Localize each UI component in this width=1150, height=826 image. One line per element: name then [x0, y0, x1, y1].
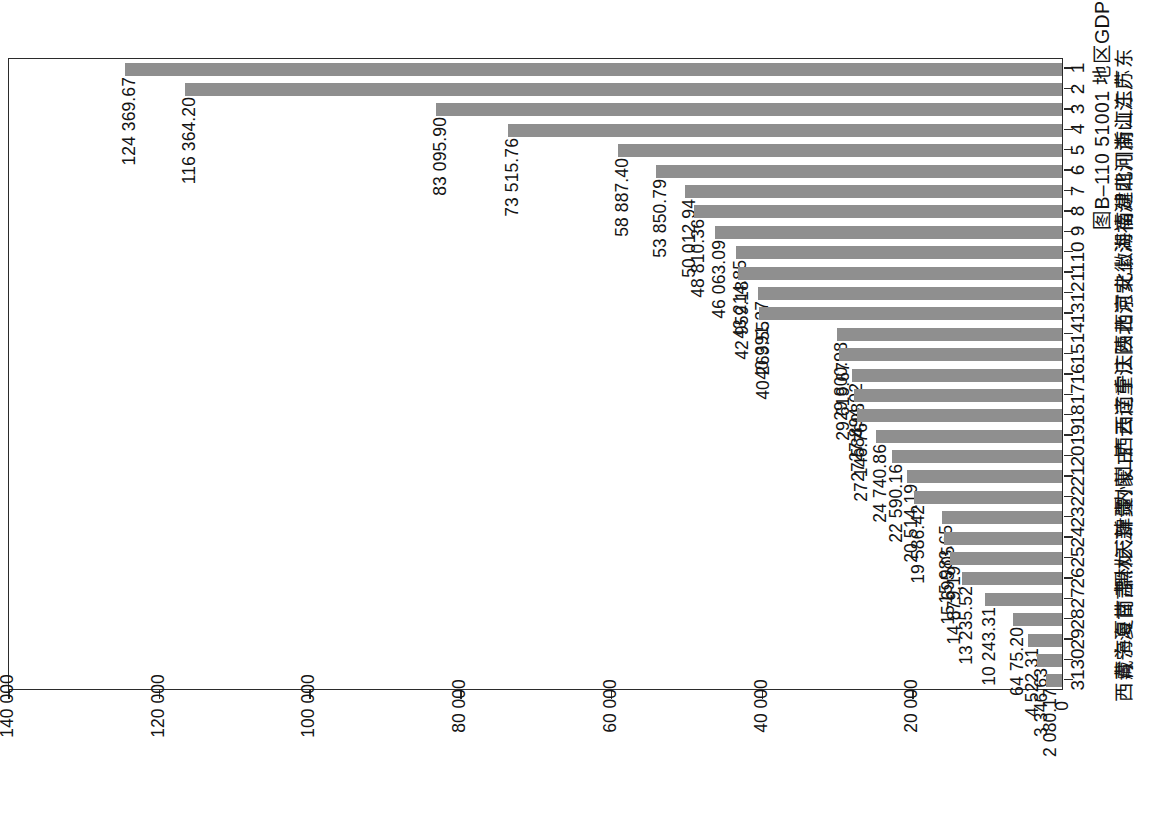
- bar-江苏: [7, 83, 1062, 96]
- category-rank-text: 1: [1068, 63, 1087, 74]
- category-rank-text: 21: [1068, 465, 1087, 486]
- bar-上海: [7, 246, 1062, 259]
- plot-area: 124 369.67116 364.2083 095.9073 515.7658…: [8, 58, 1063, 690]
- bar-rect: [914, 491, 1062, 504]
- bar-rect: [759, 307, 1062, 320]
- value-tick: [611, 690, 613, 699]
- category-rank-text: 18: [1068, 404, 1087, 425]
- bar-云南: [7, 409, 1062, 422]
- figure-caption: 图B–110 51001 地区GDP（亿元）: [1086, 230, 1126, 630]
- bar-青海: [7, 654, 1062, 667]
- value-tick: [309, 690, 311, 699]
- category-rank-text: 3: [1068, 104, 1087, 115]
- bar-rect: [839, 348, 1062, 361]
- category-rank-text: 30: [1068, 649, 1087, 670]
- category-rank-text: 25: [1068, 547, 1087, 568]
- category-rank-text: 10: [1068, 241, 1087, 262]
- category-rank-text: 24: [1068, 527, 1087, 548]
- value-tick: [460, 690, 462, 699]
- category-rank-text: 8: [1068, 206, 1087, 217]
- bar-新疆: [7, 511, 1062, 524]
- bar-广西: [7, 430, 1062, 443]
- value-tick: [762, 690, 764, 699]
- bar-rect: [857, 409, 1062, 422]
- bar-rect: [942, 511, 1062, 524]
- category-rank-text: 28: [1068, 608, 1087, 629]
- bar-rect: [656, 165, 1062, 178]
- bar-河北: [7, 287, 1062, 300]
- category-rank-text: 11: [1068, 262, 1087, 282]
- category-rank-text: 6: [1068, 165, 1087, 176]
- bar-rect: [985, 593, 1062, 606]
- category-rank-text: 4: [1068, 124, 1087, 135]
- bar-山西: [7, 450, 1062, 463]
- bar-河南: [7, 144, 1062, 157]
- bar-四川: [7, 165, 1062, 178]
- category-rank-text: 12: [1068, 282, 1087, 303]
- bar-rect: [944, 532, 1062, 545]
- category-rank-text: 16: [1068, 363, 1087, 384]
- bar-rect: [1046, 674, 1062, 687]
- bar-rect: [837, 328, 1062, 341]
- category-label-text: 西藏: [1115, 658, 1135, 701]
- bar-宁夏: [7, 634, 1062, 647]
- value-tick: [912, 690, 914, 699]
- bar-西藏: [7, 674, 1062, 687]
- bar-rect: [1028, 634, 1062, 647]
- category-rank-text: 9: [1068, 226, 1087, 237]
- bar-rect: [892, 450, 1062, 463]
- category-rank-text: 26: [1068, 567, 1087, 588]
- bar-rect: [1013, 613, 1062, 626]
- category-rank-text: 29: [1068, 628, 1087, 649]
- category-rank-text: 14: [1068, 323, 1087, 344]
- category-rank-text: 20: [1068, 445, 1087, 466]
- figure-root: 124 369.67116 364.2083 095.9073 515.7658…: [0, 0, 1150, 826]
- bar-山东: [7, 103, 1062, 116]
- bar-甘肃: [7, 593, 1062, 606]
- bar-rect: [950, 552, 1062, 565]
- category-rank-text: 7: [1068, 185, 1087, 196]
- bar-rect: [962, 572, 1062, 585]
- category-rank-text: 19: [1068, 425, 1087, 446]
- bar-江西: [7, 348, 1062, 361]
- bar-陕西: [7, 328, 1062, 341]
- bar-辽宁: [7, 389, 1062, 402]
- bar-rect: [125, 63, 1062, 76]
- category-rank-text: 15: [1068, 343, 1087, 364]
- category-rank-text: 5: [1068, 144, 1087, 155]
- bar-海南: [7, 613, 1062, 626]
- bar-黑龙江: [7, 552, 1062, 565]
- figure-caption-text: 图B–110 51001 地区GDP（亿元）: [1086, 0, 1115, 230]
- category-rank-text: 31: [1068, 669, 1087, 690]
- bar-rect: [685, 185, 1062, 198]
- bar-广东: [7, 63, 1062, 76]
- bar-rect: [876, 430, 1062, 443]
- bars-layer: 124 369.67116 364.2083 095.9073 515.7658…: [9, 59, 1062, 689]
- bar-rect: [852, 369, 1062, 382]
- category-rank-text: 27: [1068, 588, 1087, 609]
- bar-rect: [738, 267, 1062, 280]
- bar-rect: [854, 389, 1062, 402]
- bar-rect: [758, 287, 1062, 300]
- bar-rect: [736, 246, 1062, 259]
- bar-rect: [715, 226, 1062, 239]
- bar-北京: [7, 307, 1062, 320]
- bar-吉林: [7, 572, 1062, 585]
- bar-rect: [436, 103, 1062, 116]
- bar-安徽: [7, 267, 1062, 280]
- bar-rect: [907, 470, 1062, 483]
- bar-内蒙古: [7, 470, 1062, 483]
- bar-福建: [7, 205, 1062, 218]
- category-rank-text: 23: [1068, 506, 1087, 527]
- category-rank-text: 17: [1068, 384, 1087, 405]
- bar-重庆: [7, 369, 1062, 382]
- bar-rect: [508, 124, 1062, 137]
- category-rank-text: 22: [1068, 486, 1087, 507]
- bar-贵州: [7, 491, 1062, 504]
- category-rank-text: 13: [1068, 302, 1087, 323]
- bar-天津: [7, 532, 1062, 545]
- bar-浙江: [7, 124, 1062, 137]
- bar-湖南: [7, 226, 1062, 239]
- bar-rect: [1037, 654, 1062, 667]
- bar-rect: [618, 144, 1062, 157]
